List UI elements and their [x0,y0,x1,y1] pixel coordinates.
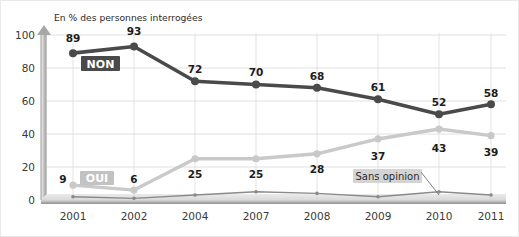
data-point [191,155,198,162]
data-point [191,77,199,85]
data-point [315,192,319,196]
data-label-non-2008: 68 [310,70,325,82]
chart-container: En % des personnes interrogées 0 20 40 6… [0,0,519,237]
data-label-non-2007: 70 [249,66,264,78]
y-axis-ticks: 0 20 40 60 80 100 [15,29,35,206]
y-tick-60: 60 [22,95,35,107]
x-tick-2010: 2010 [426,210,453,222]
y-tick-40: 40 [22,128,35,140]
series-label-non-text: NON [87,58,115,71]
data-point [71,195,75,199]
data-label-non-2001: 89 [66,32,81,44]
data-point [374,95,382,103]
x-tick-2009: 2009 [365,210,392,222]
y-tick-100: 100 [15,29,35,41]
data-labels-non: 89 93 72 70 68 61 52 58 [66,25,499,108]
series-label-oui: OUI [80,171,114,185]
x-tick-2001: 2001 [60,210,87,222]
data-label-oui-2010: 43 [432,142,447,154]
data-label-oui-2007: 25 [249,168,264,180]
data-label-non-2002: 93 [127,25,142,37]
data-label-non-2011: 58 [484,87,499,99]
data-point [376,195,380,199]
x-tick-2004: 2004 [182,210,209,222]
data-point [69,182,76,189]
series-label-oui-text: OUI [86,172,108,185]
data-label-oui-2008: 28 [310,163,325,175]
data-point [487,100,495,108]
data-label-non-2009: 61 [371,81,386,93]
data-label-oui-2009: 37 [371,150,386,162]
data-label-non-2010: 52 [432,96,447,108]
series-label-non: NON [81,56,120,71]
x-tick-2008: 2008 [304,210,331,222]
series-label-sans-opinion-text: Sans opinion [355,171,419,182]
data-point [252,81,260,89]
y-tick-20: 20 [22,161,35,173]
data-point [487,132,494,139]
x-axis-ticks: 2001 2002 2004 2007 2008 2009 2010 2011 [60,210,505,222]
x-tick-2011: 2011 [478,210,505,222]
data-label-oui-2011: 39 [484,146,499,158]
line-chart: En % des personnes interrogées 0 20 40 6… [1,1,519,237]
data-point [69,49,77,57]
data-labels-oui: 9 6 25 25 28 37 43 39 [59,142,498,185]
data-label-oui-2001: 9 [59,173,66,185]
data-point [193,193,197,197]
data-point [313,150,320,157]
data-point [435,125,442,132]
axis-note-label: En % des personnes interrogées [54,12,203,23]
data-point [130,187,137,194]
data-point [313,84,321,92]
series-label-sans-opinion: Sans opinion [353,169,439,195]
data-point [254,190,258,194]
x-tick-2002: 2002 [121,210,148,222]
y-tick-80: 80 [22,62,35,74]
data-label-oui-2002: 6 [130,173,137,185]
data-point [252,155,259,162]
x-tick-2007: 2007 [243,210,270,222]
data-label-non-2004: 72 [188,63,203,75]
y-tick-0: 0 [28,194,35,206]
data-point [435,110,443,118]
data-label-oui-2004: 25 [188,168,203,180]
data-point [132,197,136,201]
data-point [489,193,493,197]
data-point [130,43,138,51]
data-point [374,135,381,142]
